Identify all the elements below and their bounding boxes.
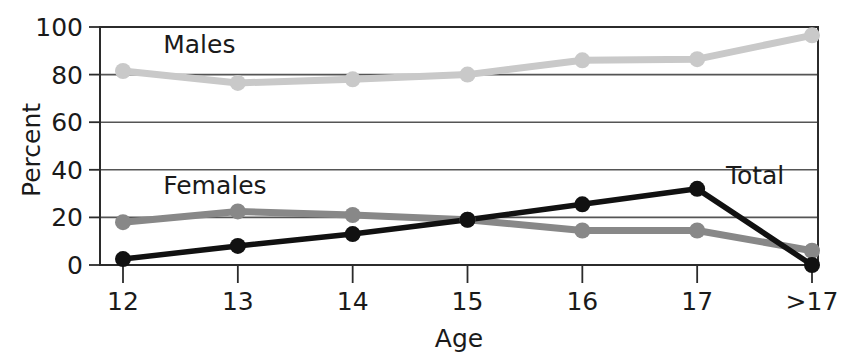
data-point-females-12 [115,214,131,230]
y-tick-label-20: 20 [51,203,83,232]
data-point-total-16 [574,196,590,212]
y-tick-label-100: 100 [35,13,83,42]
data-point-females-13 [230,203,246,219]
x-tick-label-13: 13 [222,287,254,316]
line-chart: 020406080100 121314151617>17 MalesFemale… [0,0,842,354]
data-point-males-13 [230,75,246,91]
data-point-total-12 [115,251,131,267]
x-tick-label-12: 12 [107,287,139,316]
data-point-males-17 [689,51,705,67]
series-label-males: Males [163,30,235,59]
data-point-total->17 [804,257,820,273]
x-tick-label-17: 17 [681,287,713,316]
data-point-males->17 [804,27,820,43]
y-tick-label-80: 80 [51,61,83,90]
data-point-females-16 [574,222,590,238]
data-point-total-15 [460,212,476,228]
data-point-males-16 [574,52,590,68]
x-tick-label-15: 15 [452,287,484,316]
data-point-total-13 [230,238,246,254]
x-tick-label-16: 16 [566,287,598,316]
data-point-males-15 [460,67,476,83]
chart-container: 020406080100 121314151617>17 MalesFemale… [0,0,842,354]
series-label-females: Females [163,171,266,200]
data-point-males-12 [115,63,131,79]
data-point-males-14 [345,71,361,87]
data-point-females-14 [345,207,361,223]
data-point-total-17 [689,181,705,197]
data-point-total-14 [345,226,361,242]
y-tick-label-0: 0 [67,251,83,280]
series-label-total: Total [725,161,784,190]
data-point-females->17 [804,243,820,259]
x-axis-title: Age [435,324,483,353]
y-axis-title: Percent [17,103,46,197]
data-point-females-17 [689,222,705,238]
y-tick-label-60: 60 [51,108,83,137]
y-tick-label-40: 40 [51,156,83,185]
x-tick-label->17: >17 [786,287,839,316]
x-tick-label-14: 14 [337,287,369,316]
